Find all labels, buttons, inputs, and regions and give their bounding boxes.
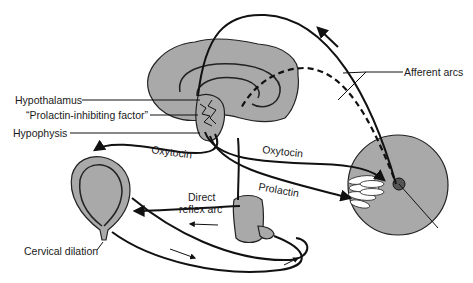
label-hypothalamus: Hypothalamus [15,94,82,106]
label-afferent-arcs: Afferent arcs [404,66,463,78]
label-hypophysis: Hypophysis [13,127,67,139]
cervical-direction-arrow [170,249,195,258]
afferent-arcs-callout [338,72,403,100]
reflex-direction-arrow [190,224,218,225]
label-oxytocin-breast: Oxytocin [262,143,304,159]
label-direct-reflex-arc-2: reflex arc [179,203,222,215]
hypothalamus-hypophysis [196,95,225,141]
label-prolactin-inhibiting-factor: “Prolactin-inhibiting factor” [26,109,148,121]
descending-pathway [238,138,239,200]
label-cervical-dilation: Cervical dilation [24,245,98,257]
cervical-afferent-lower [112,232,302,272]
label-direct-reflex-arc-1: Direct [188,191,216,203]
uterus [71,157,130,240]
breast [348,135,448,235]
label-oxytocin-uterus: Oxytocin [151,143,193,161]
lactation-reflex-diagram: Hypothalamus “Prolactin-inhibiting facto… [0,0,473,283]
spinal-cord-segment [233,196,274,243]
afferent-arrow [318,28,338,47]
